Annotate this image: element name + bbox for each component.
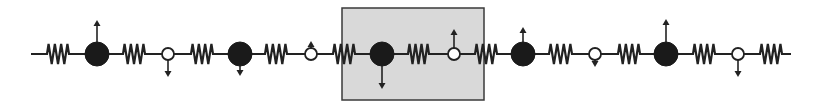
arrow-down-icon: [237, 66, 244, 76]
light-mass-icon: [732, 48, 744, 60]
spring-icon: [757, 44, 785, 64]
arrow-head: [520, 27, 527, 33]
light-mass-icon: [305, 48, 317, 60]
arrow-up-icon: [94, 20, 101, 42]
spring-3: [188, 44, 216, 64]
arrow-head: [663, 19, 670, 25]
arrow-head: [94, 20, 101, 26]
arrow-down-icon: [592, 60, 599, 67]
light-mass-icon: [162, 48, 174, 60]
heavy-mass-icon: [370, 42, 394, 66]
light-mass-icon: [448, 48, 460, 60]
spring-icon: [44, 44, 72, 64]
arrow-up-icon: [520, 27, 527, 42]
arrow-head: [165, 71, 172, 77]
spring-icon: [188, 44, 216, 64]
heavy-mass-icon: [654, 42, 678, 66]
spring-10: [690, 44, 718, 64]
light-mass-icon: [589, 48, 601, 60]
arrow-down-icon: [165, 60, 172, 77]
spring-icon: [120, 44, 148, 64]
arrow-down-icon: [735, 60, 742, 77]
spring-8: [546, 44, 575, 64]
spring-4: [262, 44, 290, 64]
arrow-up-icon: [308, 41, 315, 48]
spring-icon: [615, 44, 643, 64]
spring-2: [120, 44, 148, 64]
arrow-up-icon: [663, 19, 670, 42]
arrow-head: [237, 70, 244, 76]
arrow-head: [735, 71, 742, 77]
diagram-canvas: [0, 0, 823, 109]
spring-icon: [262, 44, 290, 64]
spring-icon: [690, 44, 718, 64]
heavy-mass-icon: [511, 42, 535, 66]
arrow-head: [308, 41, 315, 47]
arrow-head: [592, 61, 599, 67]
spring-icon: [546, 44, 575, 64]
spring-11: [757, 44, 785, 64]
spring-9: [615, 44, 643, 64]
mass-spring-chain: [0, 0, 823, 109]
heavy-mass-icon: [85, 42, 109, 66]
spring-1: [44, 44, 72, 64]
heavy-mass-icon: [228, 42, 252, 66]
